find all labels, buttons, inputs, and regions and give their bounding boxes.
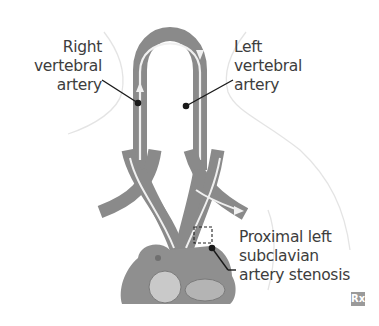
label-line: artery — [22, 76, 102, 95]
rx-badge-icon: Rx — [351, 292, 365, 306]
label-line: Left — [234, 38, 302, 57]
label-right-vertebral-artery: Right vertebral artery — [22, 38, 102, 95]
label-line: artery — [234, 76, 302, 95]
label-left-vertebral-artery: Left vertebral artery — [234, 38, 302, 95]
label-line: vertebral — [22, 57, 102, 76]
aortic-arch — [121, 244, 236, 304]
diagram-canvas: Right vertebral artery Left vertebral ar… — [0, 0, 379, 326]
label-line: Right — [22, 38, 102, 57]
label-line: Proximal left — [239, 228, 350, 247]
label-line: subclavian — [239, 247, 350, 266]
label-line: vertebral — [234, 57, 302, 76]
label-subclavian-stenosis: Proximal left subclavian artery stenosis — [239, 228, 350, 285]
label-line: artery stenosis — [239, 266, 350, 285]
lower-vessels — [100, 150, 245, 255]
